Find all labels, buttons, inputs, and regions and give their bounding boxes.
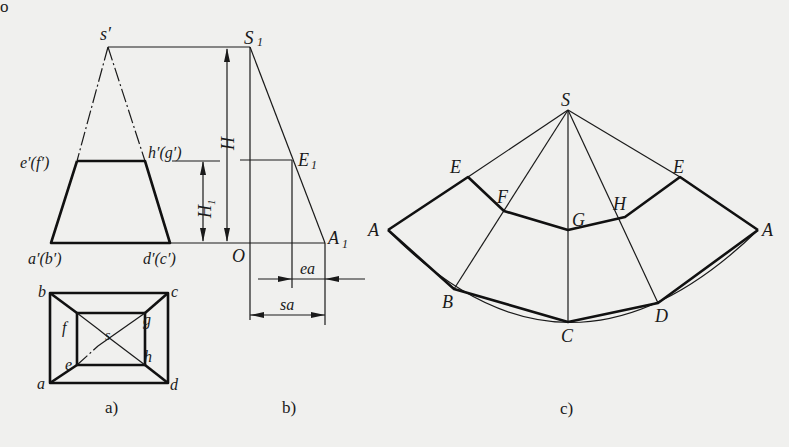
panel-a-front-view: s′ e′(f′) h′(g′) a′(b′) d′(c′) (20, 24, 325, 268)
label-H: H (612, 194, 627, 214)
label-d: d (170, 376, 179, 393)
arrow-down-icon (224, 228, 230, 242)
label-A1: A (327, 228, 340, 248)
label-E1-subscript: 1 (311, 158, 317, 172)
label-E-left: E (449, 157, 461, 177)
label-H1-subscript: 1 (205, 200, 217, 206)
arrow-right-icon (311, 312, 325, 318)
label-H1: H (195, 204, 215, 219)
label-D: D (654, 306, 668, 326)
label-A1-subscript: 1 (342, 237, 348, 251)
caption-a: a) (105, 398, 118, 417)
corner-mark: o (0, 0, 9, 16)
label-d-prime-c-prime: d′(c′) (143, 250, 176, 268)
radial-S-B (454, 110, 568, 289)
label-S1-subscript: 1 (257, 35, 263, 49)
caption-b: b) (282, 398, 296, 417)
arrow-down-icon (200, 228, 206, 242)
label-G: G (572, 210, 585, 230)
front-edge-right-dashed (108, 47, 145, 161)
label-C: C (561, 326, 574, 346)
label-s-prime: s′ (100, 24, 112, 44)
arrow-up-icon (200, 161, 206, 175)
label-e: e (65, 356, 72, 373)
arrow-up-icon (224, 48, 230, 62)
label-h: h (144, 348, 152, 365)
label-ea: ea (300, 260, 315, 277)
radial-S-E-right (568, 110, 680, 177)
label-A-left: A (367, 220, 380, 240)
plan-edge-bf (50, 293, 77, 313)
label-sa: sa (280, 296, 294, 313)
label-O: O (232, 246, 245, 266)
label-B: B (442, 292, 453, 312)
radial-S-E-left (468, 110, 568, 177)
caption-c: c) (560, 399, 573, 418)
label-a: a (37, 375, 45, 392)
label-g: g (143, 311, 151, 329)
label-a-prime-b-prime: a′(b′) (28, 250, 62, 268)
label-h-prime-g-prime: h′(g′) (148, 144, 182, 162)
label-f: f (62, 319, 69, 337)
pyramid-frustum-development-figure: o s′ e′(f′) h′(g′) a′(b′) d′(c′) b c (0, 0, 789, 447)
plan-edge-ae (50, 365, 77, 383)
plan-diagonal-f-s (77, 313, 98, 329)
label-E1: E (297, 150, 309, 170)
frustum-front-outline (51, 161, 170, 243)
label-c: c (171, 283, 178, 300)
label-s: s (105, 328, 111, 343)
arrow-left-icon (325, 276, 339, 282)
plan-diagonal-e-s-dashed (77, 346, 98, 365)
label-S: S (561, 90, 570, 110)
arrow-right-icon (278, 276, 292, 282)
plan-edge-cg (145, 293, 168, 313)
plan-diagonal-s-h (108, 337, 145, 365)
panel-c-development: S E F G H E A A B C D c) (367, 90, 774, 418)
true-length-SA (250, 47, 325, 243)
front-edge-left-dashed (77, 47, 108, 161)
label-H: H (218, 136, 238, 151)
label-E-right: E (672, 157, 684, 177)
label-A-right: A (761, 220, 774, 240)
label-F: F (496, 187, 509, 207)
label-S1: S (244, 27, 254, 48)
panel-a-plan-view: b c a d f g e h s a) (37, 283, 179, 417)
arrow-left-icon (250, 312, 264, 318)
label-e-prime-f-prime: e′(f′) (20, 154, 49, 172)
plan-edge-dh (145, 365, 168, 383)
panel-b-true-length: H H 1 ea sa S 1 E 1 A 1 O b) (195, 27, 365, 417)
label-b: b (38, 283, 46, 300)
